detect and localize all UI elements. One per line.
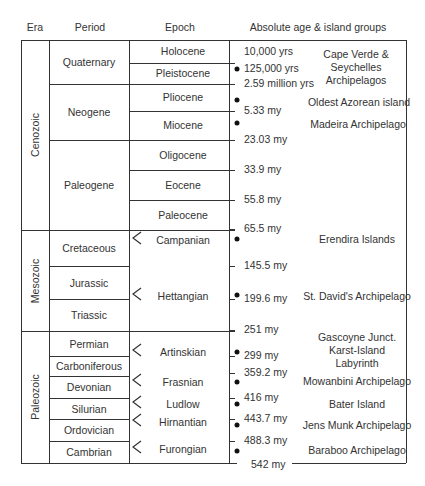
epoch-boundary-line	[129, 111, 235, 112]
period-boundary-line	[49, 419, 129, 420]
age-label: 542 my	[251, 458, 285, 470]
island-age-dot-icon	[235, 350, 240, 355]
age-tick	[229, 419, 235, 420]
age-tick	[229, 330, 235, 331]
period-boundary-line	[49, 299, 129, 300]
epoch-label-hettangian: Hettangian	[158, 290, 209, 302]
island-age-dot-icon	[235, 237, 240, 242]
period-label-jurassic: Jurassic	[70, 277, 109, 289]
age-tick	[229, 266, 235, 267]
period-boundary-line	[49, 398, 129, 399]
island-age-dot-icon	[235, 402, 240, 407]
period-boundary-line	[49, 140, 129, 141]
age-label: 23.03 my	[244, 133, 287, 145]
age-label: 488.3 my	[244, 434, 287, 446]
age-tick	[229, 84, 235, 85]
epoch-label-miocene: Miocene	[163, 119, 203, 131]
age-tick	[229, 356, 235, 357]
chevron-left-icon	[132, 395, 142, 413]
column-divider-era	[49, 40, 50, 463]
age-label: 359.2 my	[244, 366, 287, 378]
period-boundary-line	[49, 84, 129, 85]
period-boundary-line-epoch-col	[129, 84, 235, 85]
island-age-dot-icon	[235, 293, 240, 298]
period-label-cretaceous: Cretaceous	[62, 242, 116, 254]
island-group-label: Bater Island	[329, 398, 385, 411]
period-label-ordovician: Ordovician	[64, 424, 114, 436]
period-boundary-line	[49, 376, 129, 377]
epoch-boundary-line	[129, 63, 235, 64]
age-tick	[229, 111, 235, 112]
age-tick	[229, 170, 235, 171]
epoch-label-furongian: Furongian	[159, 443, 206, 455]
header-absolute-age: Absolute age & island groups	[250, 21, 387, 33]
period-boundary-line	[49, 441, 129, 442]
epoch-label-eocene: Eocene	[165, 179, 201, 191]
table-border-top	[21, 40, 406, 41]
table-border-left	[21, 40, 22, 463]
island-group-label: Jens Munk Archipelago	[303, 419, 412, 432]
epoch-label-paleocene: Paleocene	[158, 209, 208, 221]
column-divider-period	[129, 40, 130, 463]
period-boundary-line	[49, 331, 129, 332]
chevron-left-icon	[132, 231, 142, 249]
age-label: 65.5 my	[244, 222, 281, 234]
island-age-dot-icon	[235, 423, 240, 428]
epoch-label-ludlow: Ludlow	[166, 398, 199, 410]
epoch-label-campanian: Campanian	[156, 234, 210, 246]
age-tick	[229, 200, 235, 201]
period-label-cambrian: Cambrian	[66, 446, 112, 458]
period-label-silurian: Silurian	[71, 403, 106, 415]
age-label: 299 my	[244, 349, 278, 361]
period-boundary-line	[49, 230, 129, 231]
period-label-carboniferous: Carboniferous	[56, 360, 122, 372]
island-group-label: Gascoyne Junct.Karst-IslandLabyrinth	[318, 331, 396, 370]
epoch-boundary-line	[129, 170, 235, 171]
island-group-label: Erendira Islands	[319, 233, 395, 246]
epoch-label-oligocene: Oligocene	[159, 149, 206, 161]
chevron-left-icon	[132, 413, 142, 431]
age-tick	[229, 373, 235, 374]
table-border-bottom-left	[21, 463, 237, 464]
header-era: Era	[27, 21, 43, 33]
period-label-permian: Permian	[69, 338, 108, 350]
island-group-label: St. David's Archipelago	[303, 290, 411, 303]
period-label-quaternary: Quaternary	[63, 56, 116, 68]
period-label-devonian: Devonian	[67, 381, 111, 393]
epoch-label-holocene: Holocene	[161, 45, 205, 57]
island-age-dot-icon	[235, 449, 240, 454]
chevron-left-icon	[132, 343, 142, 361]
island-group-label: Mowanbini Archipelago	[303, 375, 411, 388]
chevron-left-icon	[132, 287, 142, 305]
island-age-dot-icon	[235, 380, 240, 385]
island-age-dot-icon	[235, 121, 240, 126]
island-age-dot-icon	[235, 98, 240, 103]
age-label: 10,000 yrs	[244, 45, 293, 57]
era-label-cenozoic: Cenozoic	[29, 113, 41, 157]
period-label-neogene: Neogene	[68, 106, 111, 118]
epoch-label-hirnantian: Hirnantian	[159, 416, 207, 428]
age-label: 416 my	[244, 391, 278, 403]
period-boundary-line	[49, 266, 129, 267]
age-label: 145.5 my	[244, 259, 287, 271]
age-label: 2.59 million yrs	[244, 77, 314, 89]
cropped-caption-fragment	[10, 476, 415, 479]
island-age-dot-icon	[235, 67, 240, 72]
age-tick	[229, 441, 235, 442]
header-period: Period	[75, 21, 105, 33]
epoch-label-pleistocene: Pleistocene	[156, 67, 210, 79]
island-group-label: Oldest Azorean island	[308, 96, 410, 109]
island-group-label: Madeira Archipelago	[310, 118, 406, 131]
column-divider-epoch	[229, 40, 230, 463]
epoch-boundary-line	[129, 200, 235, 201]
table-border-bottom-right	[292, 463, 406, 464]
chevron-left-icon	[132, 440, 142, 458]
period-boundary-line	[49, 356, 129, 357]
age-label: 5.33 my	[244, 104, 281, 116]
age-label: 125,000 yrs	[244, 62, 299, 74]
age-tick	[229, 398, 235, 399]
epoch-label-frasnian: Frasnian	[163, 376, 204, 388]
epoch-label-pliocene: Pliocene	[163, 91, 203, 103]
age-tick	[229, 229, 235, 230]
age-label: 199.6 my	[244, 292, 287, 304]
